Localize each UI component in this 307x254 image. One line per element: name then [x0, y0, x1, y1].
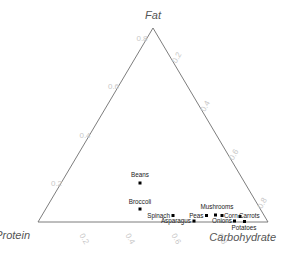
tick-left-3: 0.8	[136, 34, 148, 43]
data-point-marker[interactable]	[205, 214, 208, 217]
tick-left-1: 0.4	[79, 131, 91, 140]
ternary-plot: 0.20.40.60.8 0.20.40.60.8 0.20.40.60.8 F…	[0, 0, 307, 254]
right-axis-ticks: 0.20.40.60.8	[170, 50, 269, 210]
data-point-label: Carrots	[239, 212, 260, 219]
data-point-label: Potatoes	[232, 224, 257, 231]
ternary-plot-svg: 0.20.40.60.8 0.20.40.60.8 0.20.40.60.8 F…	[0, 0, 307, 254]
axis-label-carbohydrate: Carbohydrate	[209, 231, 276, 243]
tick-right-3: 0.8	[256, 196, 270, 211]
tick-left-0: 0.2	[51, 179, 63, 188]
data-point-label: Beans	[131, 171, 149, 178]
left-axis-ticks: 0.20.40.60.8	[51, 34, 148, 189]
axis-label-protein: Protein	[0, 229, 30, 241]
data-point-marker[interactable]	[233, 220, 236, 223]
tick-right-2: 0.6	[227, 147, 241, 162]
tick-left-2: 0.6	[108, 82, 120, 91]
data-point-marker[interactable]	[193, 220, 196, 223]
data-point-label: Asparagus	[161, 217, 191, 225]
tick-bottom-2: 0.6	[169, 232, 183, 247]
data-point-label: Broccoli	[129, 198, 151, 205]
tick-bottom-0: 0.2	[77, 232, 91, 247]
ternary-triangle-outline	[38, 28, 268, 222]
tick-right-1: 0.4	[199, 99, 213, 114]
data-point-label: Mushrooms	[201, 203, 234, 210]
tick-bottom-1: 0.4	[123, 232, 137, 247]
data-point-marker[interactable]	[139, 182, 142, 185]
tick-right-0: 0.2	[170, 50, 184, 65]
bottom-axis-ticks: 0.20.40.60.8	[77, 232, 229, 247]
axis-label-fat: Fat	[145, 9, 162, 21]
data-point-marker[interactable]	[139, 208, 142, 211]
data-point-label: Peas	[189, 212, 203, 219]
data-point-label: Onions	[212, 217, 232, 224]
